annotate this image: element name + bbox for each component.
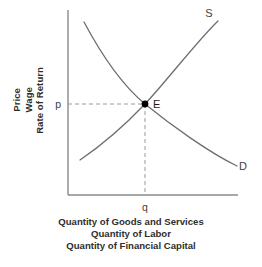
x-axis-caption-goods-services: Quantity of Goods and Services xyxy=(0,216,262,228)
supply-demand-chart: S D E p q Price Wage Rate of Return Quan… xyxy=(0,0,262,267)
x-axis-caption-labor: Quantity of Labor xyxy=(0,228,262,240)
equilibrium-point-marker xyxy=(142,101,149,108)
y-axis-label-rate-of-return: Rate of Return xyxy=(35,67,45,134)
x-axis-caption-financial-capital: Quantity of Financial Capital xyxy=(0,240,262,252)
supply-curve-label: S xyxy=(205,7,212,19)
equilibrium-point-label: E xyxy=(153,98,160,110)
demand-curve-label: D xyxy=(239,160,247,172)
y-axis-label-wage: Wage xyxy=(24,87,34,112)
quantity-tick-label: q xyxy=(142,201,148,213)
supply-curve xyxy=(80,21,218,160)
demand-curve xyxy=(84,22,237,166)
x-axis-caption-group: Quantity of Goods and Services Quantity … xyxy=(0,216,262,253)
y-axis-label-price: Price xyxy=(12,88,22,112)
y-axis-label-group: Price Wage Rate of Return xyxy=(12,40,47,160)
price-tick-label: p xyxy=(55,98,61,110)
